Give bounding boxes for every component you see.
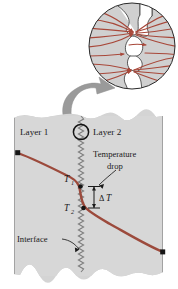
right-endpoint-marker — [160, 249, 165, 254]
left-endpoint-marker — [15, 150, 20, 155]
delta-t-symbol: T — [106, 193, 112, 203]
delta-t-label: Δ T — [99, 193, 112, 203]
thermal-contact-resistance-figure: Layer 1 Layer 2 Temperature drop T 1 T 2… — [0, 0, 178, 289]
t1-symbol: T — [64, 174, 70, 184]
layer-1-label: Layer 1 — [20, 127, 49, 137]
t2-point-marker — [81, 206, 86, 211]
t2-symbol: T — [64, 203, 70, 213]
temperature-drop-label-line2: drop — [107, 161, 123, 171]
layer-2-label: Layer 2 — [93, 127, 122, 137]
temperature-drop-label-line1: Temperature — [93, 149, 136, 159]
delta-symbol: Δ — [99, 194, 105, 203]
t1-subscript: 1 — [71, 179, 74, 186]
interface-label: Interface — [17, 234, 48, 244]
t1-point-marker — [78, 184, 83, 189]
t2-subscript: 2 — [71, 208, 74, 215]
slab-inner — [14, 112, 163, 280]
